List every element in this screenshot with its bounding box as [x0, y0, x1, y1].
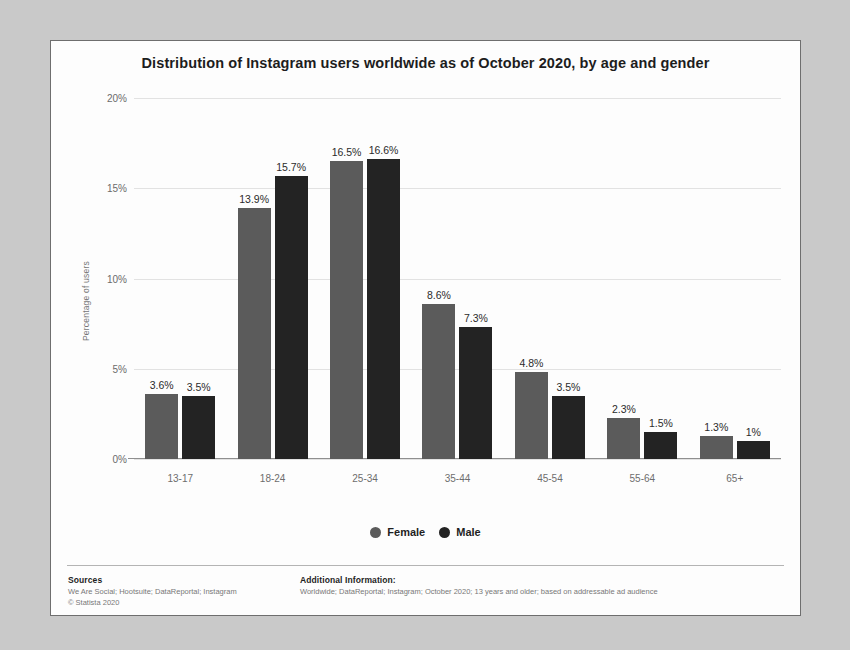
bar-value-label: 16.6%: [369, 144, 399, 156]
bar-male-18-24[interactable]: 15.7%: [275, 98, 308, 459]
bar-value-label: 3.5%: [187, 381, 211, 393]
bar-female-45-54[interactable]: 4.8%: [515, 98, 548, 459]
x-axis-tick-35-44: 35-44: [411, 473, 503, 484]
bar-value-label: 7.3%: [464, 312, 488, 324]
bar-rect: [238, 208, 271, 459]
chart-footer: Sources We Are Social; Hootsuite; DataRe…: [68, 575, 788, 609]
bar-value-label: 2.3%: [612, 403, 636, 415]
bar-group-55-64: 2.3%1.5%55-64: [596, 98, 688, 459]
bar-value-label: 4.8%: [519, 357, 543, 369]
bar-female-25-34[interactable]: 16.5%: [330, 98, 363, 459]
bar-rect: [330, 161, 363, 459]
bar-rect: [515, 372, 548, 459]
bar-group-45-54: 4.8%3.5%45-54: [504, 98, 596, 459]
bar-value-label: 1%: [746, 426, 761, 438]
bar-group-25-34: 16.5%16.6%25-34: [319, 98, 411, 459]
additional-information-column: Additional Information: Worldwide; DataR…: [300, 575, 788, 609]
legend-swatch-icon: [370, 527, 381, 538]
bar-value-label: 16.5%: [332, 146, 362, 158]
bar-rect: [367, 159, 400, 459]
bar-rect: [182, 396, 215, 459]
bar-rect: [552, 396, 585, 459]
gridline-0: [134, 459, 781, 460]
x-axis-tick-18-24: 18-24: [226, 473, 318, 484]
bar-value-label: 8.6%: [427, 289, 451, 301]
x-axis-tick-55-64: 55-64: [596, 473, 688, 484]
bar-female-18-24[interactable]: 13.9%: [238, 98, 271, 459]
x-axis-tick-45-54: 45-54: [504, 473, 596, 484]
chart-legend: FemaleMale: [51, 526, 800, 538]
y-axis-tick-10: 10%: [107, 273, 127, 284]
bar-group-18-24: 13.9%15.7%18-24: [226, 98, 318, 459]
sources-column: Sources We Are Social; Hootsuite; DataRe…: [68, 575, 300, 609]
bar-male-55-64[interactable]: 1.5%: [644, 98, 677, 459]
bar-male-35-44[interactable]: 7.3%: [459, 98, 492, 459]
bar-rect: [644, 432, 677, 459]
bar-value-label: 1.5%: [649, 417, 673, 429]
bar-group-13-17: 3.6%3.5%13-17: [134, 98, 226, 459]
x-axis-tick-25-34: 25-34: [319, 473, 411, 484]
bar-value-label: 15.7%: [276, 161, 306, 173]
x-axis-tick-13-17: 13-17: [134, 473, 226, 484]
y-axis-tick-15: 15%: [107, 183, 127, 194]
bar-groups: 3.6%3.5%13-1713.9%15.7%18-2416.5%16.6%25…: [134, 98, 781, 459]
plot-area: 0%5%10%15%20% 3.6%3.5%13-1713.9%15.7%18-…: [134, 98, 781, 459]
sources-copyright: © Statista 2020: [68, 598, 300, 609]
bar-group-35-44: 8.6%7.3%35-44: [411, 98, 503, 459]
legend-label: Male: [456, 526, 480, 538]
bar-rect: [607, 418, 640, 460]
bar-rect: [145, 394, 178, 459]
bar-value-label: 1.3%: [704, 421, 728, 433]
sources-line-1: We Are Social; Hootsuite; DataReportal; …: [68, 587, 300, 598]
y-axis-tick-0: 0%: [113, 454, 127, 465]
legend-item-female[interactable]: Female: [370, 526, 425, 538]
bar-female-65+[interactable]: 1.3%: [700, 98, 733, 459]
bar-female-55-64[interactable]: 2.3%: [607, 98, 640, 459]
bar-rect: [422, 304, 455, 459]
bar-rect: [275, 176, 308, 459]
bar-rect: [700, 436, 733, 459]
y-axis-tick-20: 20%: [107, 93, 127, 104]
bar-male-13-17[interactable]: 3.5%: [182, 98, 215, 459]
bar-rect: [737, 441, 770, 459]
bar-male-45-54[interactable]: 3.5%: [552, 98, 585, 459]
bar-male-65+[interactable]: 1%: [737, 98, 770, 459]
bar-value-label: 3.6%: [150, 379, 174, 391]
bar-value-label: 3.5%: [556, 381, 580, 393]
bar-value-label: 13.9%: [239, 193, 269, 205]
bar-female-35-44[interactable]: 8.6%: [422, 98, 455, 459]
legend-item-male[interactable]: Male: [439, 526, 480, 538]
bar-rect: [459, 327, 492, 459]
sources-heading: Sources: [68, 575, 300, 585]
bar-female-13-17[interactable]: 3.6%: [145, 98, 178, 459]
footer-divider: [67, 565, 784, 566]
additional-information-line: Worldwide; DataReportal; Instagram; Octo…: [300, 587, 788, 598]
additional-information-heading: Additional Information:: [300, 575, 788, 585]
bar-male-25-34[interactable]: 16.6%: [367, 98, 400, 459]
chart-card: Distribution of Instagram users worldwid…: [50, 40, 801, 616]
chart-title: Distribution of Instagram users worldwid…: [51, 55, 800, 71]
y-axis-tick-5: 5%: [113, 363, 127, 374]
x-axis-tick-65+: 65+: [689, 473, 781, 484]
legend-swatch-icon: [439, 527, 450, 538]
bar-group-65+: 1.3%1%65+: [689, 98, 781, 459]
y-axis-title: Percentage of users: [81, 261, 91, 341]
legend-label: Female: [387, 526, 425, 538]
